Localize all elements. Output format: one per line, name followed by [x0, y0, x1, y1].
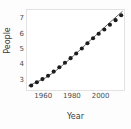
data-point	[40, 77, 44, 81]
y-tick-label: 5	[2, 45, 24, 52]
data-point	[74, 51, 78, 55]
data-point	[102, 27, 106, 31]
y-axis-tick-labels: 34567	[0, 9, 24, 91]
x-axis-label: Year	[26, 112, 125, 121]
fit-line	[28, 11, 122, 86]
data-point	[63, 61, 67, 65]
x-tick-label: 1980	[57, 92, 87, 100]
data-point	[69, 56, 73, 60]
data-point	[80, 46, 84, 50]
data-point	[57, 65, 61, 69]
x-tick-label: 1960	[28, 92, 58, 100]
y-tick-label: 4	[2, 61, 24, 68]
plot-area	[26, 9, 125, 91]
y-tick-label: 6	[2, 30, 24, 37]
data-point	[35, 80, 39, 84]
x-axis-tick-labels: 196019802000	[26, 92, 125, 102]
data-points	[29, 13, 123, 87]
data-point	[52, 70, 56, 74]
data-point	[97, 32, 101, 36]
x-tick-label: 2000	[86, 92, 116, 100]
y-tick-label: 7	[2, 15, 24, 22]
y-tick-label: 3	[2, 76, 24, 83]
data-point	[119, 13, 123, 17]
plot-svg	[27, 10, 124, 90]
data-point	[108, 23, 112, 27]
chart-figure: People 34567 196019802000 Year	[0, 0, 131, 129]
data-point	[29, 83, 33, 87]
data-point	[91, 36, 95, 40]
data-point	[85, 41, 89, 45]
data-point	[46, 74, 50, 78]
data-point	[114, 18, 118, 22]
